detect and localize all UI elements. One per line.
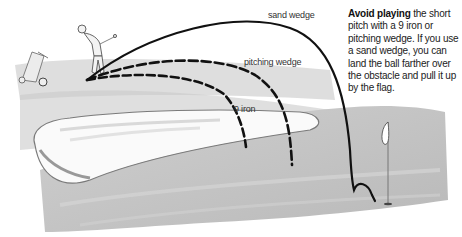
caption-text: the short pitch with a 9 iron or pitchin… [348, 8, 458, 93]
pitching-wedge-label: pitching wedge [244, 57, 301, 67]
nine-iron-label: 9 iron [234, 104, 255, 114]
sand-wedge-label: sand wedge [268, 10, 315, 20]
caption: Avoid playing the short pitch with a 9 i… [348, 8, 460, 95]
caption-bold: Avoid playing [348, 8, 411, 19]
